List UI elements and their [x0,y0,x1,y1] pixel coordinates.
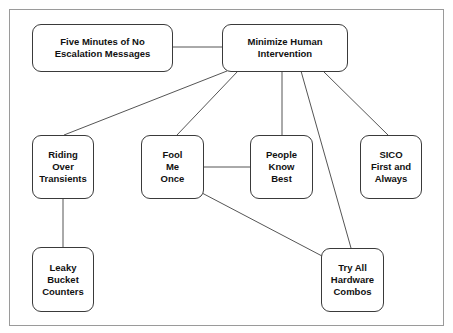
node-people-know-best: People Know Best [250,135,313,199]
node-fool-me-once: Fool Me Once [141,135,204,199]
node-label: Leaky Bucket Counters [42,262,84,298]
node-label: People Know Best [266,149,297,185]
node-try-all-hardware: Try All Hardware Combos [321,248,384,312]
node-label: Five Minutes of No Escalation Messages [55,36,151,60]
edge-fool-me-once-to-try-all-hardware [202,193,322,256]
node-label: Fool Me Once [161,149,185,185]
node-label: SICO First and Always [371,149,411,185]
edge-minimize-human-to-sico-first [323,71,388,135]
node-leaky-bucket: Leaky Bucket Counters [32,247,94,312]
edge-minimize-human-to-riding-over [64,71,227,135]
node-riding-over: Riding Over Transients [32,135,94,199]
node-minimize-human: Minimize Human Intervention [222,24,348,72]
node-sico-first: SICO First and Always [360,135,422,199]
node-label: Riding Over Transients [39,149,87,185]
node-label: Try All Hardware Combos [331,262,374,298]
node-five-minutes: Five Minutes of No Escalation Messages [32,24,173,72]
node-label: Minimize Human Intervention [248,36,323,60]
edge-minimize-human-to-fool-me-once [177,71,238,135]
